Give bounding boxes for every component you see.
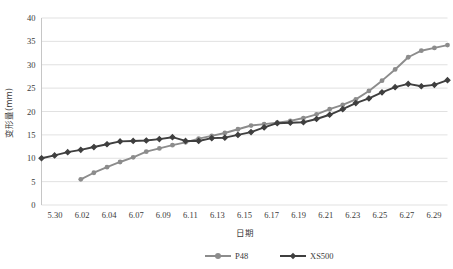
data-point-xs500 (144, 138, 149, 143)
x-axis-tick-labels: 5.306.026.046.076.096.116.136.156.176.19… (48, 210, 442, 220)
data-point-xs500 (91, 145, 96, 150)
data-point-p48 (170, 143, 175, 148)
x-tick-label: 6.23 (345, 210, 360, 220)
data-point-p48 (393, 67, 398, 72)
x-tick-label: 6.09 (156, 210, 171, 220)
y-axis-tick-labels: 0510152025303540 (27, 13, 36, 210)
y-tick-label: 0 (31, 200, 35, 210)
legend-label-xs500: XS500 (310, 251, 334, 261)
data-point-p48 (157, 146, 162, 151)
x-tick-label: 6.15 (237, 210, 252, 220)
y-tick-label: 5 (31, 177, 35, 187)
data-point-p48 (406, 55, 411, 60)
data-point-xs500 (432, 82, 437, 87)
y-axis-title: 变形量(mm) (4, 88, 14, 138)
x-tick-label: 5.30 (48, 210, 63, 220)
data-point-xs500 (393, 85, 398, 90)
data-point-p48 (419, 48, 424, 53)
y-tick-label: 15 (27, 130, 36, 140)
y-axis-title-text: 变形量(mm) (4, 88, 14, 138)
x-axis-title: 日期 (236, 228, 254, 238)
data-point-xs500 (249, 130, 254, 135)
data-point-p48 (91, 170, 96, 175)
data-point-p48 (105, 165, 110, 170)
data-point-p48 (236, 127, 241, 132)
chart-legend: P48XS500 (205, 251, 334, 261)
data-point-p48 (327, 107, 332, 112)
plot-gridlines (42, 18, 448, 205)
chart-container: 0510152025303540 5.306.026.046.076.096.1… (0, 0, 453, 269)
y-tick-label: 35 (27, 36, 36, 46)
data-point-p48 (144, 149, 149, 154)
data-point-xs500 (406, 81, 411, 86)
data-point-xs500 (170, 135, 175, 140)
legend-swatch-marker (215, 253, 221, 259)
x-tick-label: 6.27 (399, 210, 414, 220)
y-tick-label: 25 (27, 83, 36, 93)
x-tick-label: 6.19 (291, 210, 306, 220)
data-series-group (39, 43, 450, 182)
y-tick-label: 30 (27, 60, 36, 70)
data-point-p48 (432, 46, 437, 51)
data-point-xs500 (78, 147, 83, 152)
data-point-p48 (118, 160, 123, 165)
legend-swatch-marker (290, 253, 296, 259)
x-tick-label: 6.17 (264, 210, 279, 220)
data-point-xs500 (157, 137, 162, 142)
legend-label-p48: P48 (235, 251, 248, 261)
data-point-p48 (380, 78, 385, 83)
data-point-xs500 (65, 150, 70, 155)
series-line-xs500 (42, 80, 448, 158)
data-point-xs500 (131, 138, 136, 143)
data-point-xs500 (301, 120, 306, 125)
data-point-p48 (445, 43, 450, 48)
y-tick-label: 40 (27, 13, 36, 23)
x-axis-title-text: 日期 (236, 228, 254, 238)
data-point-xs500 (445, 78, 450, 83)
x-tick-label: 6.02 (75, 210, 90, 220)
x-tick-label: 6.11 (183, 210, 198, 220)
data-point-xs500 (222, 135, 227, 140)
data-point-p48 (131, 155, 136, 160)
x-tick-label: 6.25 (372, 210, 387, 220)
data-point-p48 (249, 123, 254, 128)
data-point-xs500 (118, 139, 123, 144)
data-point-xs500 (39, 156, 44, 161)
x-tick-label: 6.07 (129, 210, 144, 220)
series-line-p48 (81, 45, 448, 179)
data-point-xs500 (314, 116, 319, 121)
y-tick-label: 20 (27, 107, 36, 117)
data-point-xs500 (104, 142, 109, 147)
data-point-p48 (78, 177, 83, 182)
data-point-xs500 (235, 132, 240, 137)
x-tick-label: 6.21 (318, 210, 333, 220)
data-point-p48 (367, 89, 372, 94)
data-point-xs500 (52, 153, 57, 158)
x-tick-label: 6.04 (102, 210, 118, 220)
line-chart: 0510152025303540 5.306.026.046.076.096.1… (0, 0, 453, 269)
x-tick-label: 6.13 (210, 210, 225, 220)
x-tick-label: 6.29 (427, 210, 442, 220)
y-tick-label: 10 (27, 153, 36, 163)
